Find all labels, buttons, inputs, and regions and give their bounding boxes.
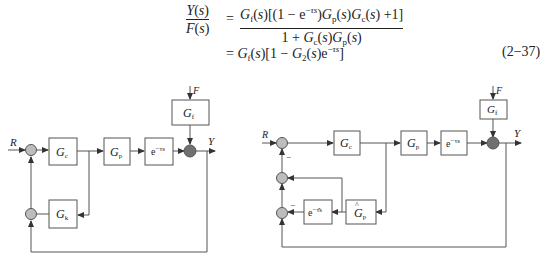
label-y: Y: [208, 135, 216, 147]
sum-junction-r2: [277, 173, 288, 184]
sum-junction-r1: [277, 138, 288, 149]
sum-junction-output: [184, 145, 196, 157]
minus-sign-1: −: [286, 152, 291, 162]
label-y-right: Y: [514, 127, 522, 139]
label-r-right: R: [261, 129, 268, 140]
sum-junction-output-r: [487, 137, 499, 149]
sum-junction-2: [26, 209, 37, 220]
block-diagrams: R Y F Gc Gp e−τs Gf Gk R Y F Gc Gp e−τs …: [0, 0, 553, 262]
label-r: R: [9, 136, 17, 148]
minus-sign-2: −: [290, 200, 295, 210]
label-f: F: [192, 85, 200, 96]
sum-junction-r3: [277, 208, 288, 219]
svg-text:^: ^: [355, 201, 359, 210]
label-f-right: F: [495, 85, 503, 96]
sum-junction-1: [26, 145, 37, 156]
